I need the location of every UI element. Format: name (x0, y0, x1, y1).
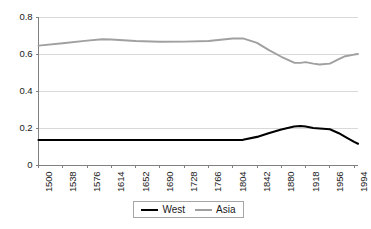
x-tick-label: 1690 (164, 172, 175, 192)
legend-item-asia: Asia (190, 204, 240, 215)
y-tick-label: 0.6 (3, 49, 33, 59)
x-tick-label: 1538 (67, 172, 78, 192)
gridlines (39, 17, 359, 128)
chart-legend: West Asia (133, 201, 244, 218)
plot-area (0, 0, 371, 229)
line-chart: 00.20.40.60.8 15001538157616141652169017… (0, 0, 371, 229)
legend-swatch-asia-icon (195, 209, 212, 211)
x-tick-label: 1804 (237, 172, 248, 192)
y-tick-label: 0.2 (3, 123, 33, 133)
x-tick-label: 1728 (188, 172, 199, 192)
y-tick-label: 0 (3, 160, 33, 170)
y-tick-label: 0.8 (3, 12, 33, 22)
legend-label-asia: Asia (216, 204, 235, 215)
x-tick-label: 1766 (212, 172, 223, 192)
x-tick-label: 1652 (140, 172, 151, 192)
x-tick-label: 1500 (43, 172, 54, 192)
legend-item-west: West (136, 204, 190, 215)
legend-swatch-west-icon (141, 209, 158, 211)
y-tick-label: 0.4 (3, 86, 33, 96)
legend-label-west: West (162, 204, 185, 215)
x-tick-label: 1918 (310, 172, 321, 192)
x-tick-label: 1994 (358, 172, 369, 192)
x-tick-label: 1576 (91, 172, 102, 192)
series-line-west (39, 126, 359, 144)
x-tick-label: 1956 (334, 172, 345, 192)
x-tick-label: 1614 (115, 172, 126, 192)
x-tick-label: 1842 (261, 172, 272, 192)
axis-lines (36, 17, 359, 168)
series-line-asia (39, 38, 359, 64)
x-tick-label: 1880 (285, 172, 296, 192)
